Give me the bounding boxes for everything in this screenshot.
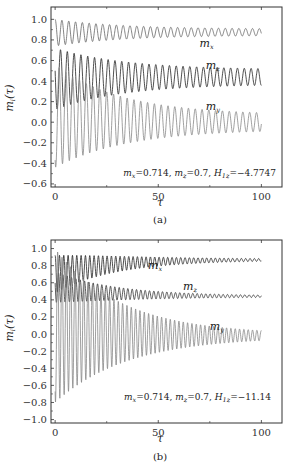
- y-tick-label: −0.8: [23, 397, 47, 408]
- parameter-annotation: mx=0.714, mz=0.7, H1z=−4.7747: [123, 168, 276, 180]
- y-axis-label: mi(τ): [3, 84, 17, 111]
- y-axis-label: mi(τ): [3, 314, 17, 341]
- series-label-mz: mz: [183, 280, 197, 294]
- y-tick-label: −0.2: [23, 137, 47, 148]
- y-tick-label: −0.2: [23, 346, 47, 357]
- series-label-my: my: [210, 320, 224, 334]
- x-axis-label: τ: [157, 432, 164, 445]
- y-tick-label: 0.6: [31, 277, 47, 288]
- y-tick-label: 0.8: [31, 34, 47, 45]
- x-tick-label: 0: [52, 191, 58, 202]
- series-label-mx: mx: [200, 37, 214, 51]
- y-tick-label: 1.0: [31, 14, 47, 25]
- y-tick-label: 0.6: [31, 55, 47, 66]
- y-tick-label: 0.4: [31, 294, 47, 305]
- panel-a: mxmzmy −0.6−0.4−0.20.00.20.40.60.81.0050…: [3, 7, 282, 225]
- series-line-my: [55, 252, 261, 402]
- figure: mxmzmy −0.6−0.4−0.20.00.20.40.60.81.0050…: [0, 0, 286, 469]
- series-line-mz: [55, 273, 261, 302]
- y-tick-label: 1.0: [31, 243, 47, 254]
- series-group: mxmzmy: [55, 252, 261, 402]
- series-group: mxmzmy: [55, 19, 261, 167]
- y-tick-label: 0.8: [31, 260, 47, 271]
- series-label-mz: mz: [206, 59, 220, 73]
- parameter-annotation: mx=0.714, mz=0.7, H1z=−11.14: [124, 392, 271, 404]
- y-tick-label: 0.4: [31, 76, 47, 87]
- y-tick-label: 0.2: [31, 96, 47, 107]
- y-tick-label: −1.0: [23, 414, 47, 425]
- series-line-mz: [55, 50, 261, 109]
- x-tick-label: 100: [252, 191, 271, 202]
- y-tick-label: −0.6: [23, 380, 47, 391]
- x-axis-label: τ: [157, 196, 164, 209]
- x-tick-label: 0: [52, 427, 58, 438]
- y-tick-label: −0.6: [23, 178, 47, 189]
- panel-b: mxmzmy −1.0−0.8−0.6−0.4−0.20.00.20.40.60…: [3, 240, 282, 462]
- y-tick-label: −0.4: [23, 158, 47, 169]
- series-line-mx: [55, 19, 261, 45]
- panel-caption: (a): [153, 214, 167, 225]
- panel-caption: (b): [153, 451, 167, 462]
- y-tick-label: 0.2: [31, 311, 47, 322]
- y-tick-label: 0.0: [31, 117, 47, 128]
- y-tick-label: 0.0: [31, 329, 47, 340]
- series-label-my: my: [206, 100, 220, 114]
- y-tick-label: −0.4: [23, 363, 47, 374]
- x-tick-label: 100: [252, 427, 271, 438]
